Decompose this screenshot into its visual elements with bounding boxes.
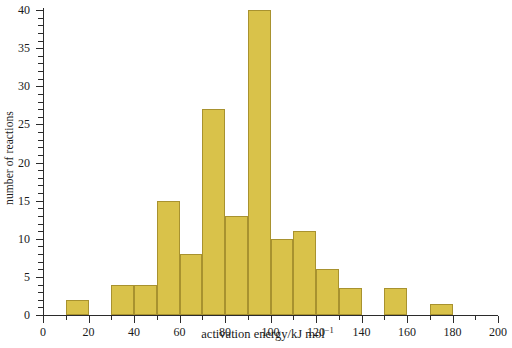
y-axis-tick-major [36,201,43,202]
plot-area [43,10,498,315]
histogram-bar [134,285,157,316]
x-axis-tick-label: 80 [205,326,245,338]
y-axis-tick-label: 25 [0,118,30,130]
x-axis-tick-major [89,316,90,323]
y-axis-tick-label: 10 [0,233,30,245]
histogram-bar [66,300,89,315]
x-axis-tick-label: 140 [342,326,382,338]
y-axis-tick-label: 5 [0,271,30,283]
x-axis-tick-label: 20 [69,326,109,338]
x-axis-tick-label: 0 [23,326,63,338]
x-axis-tick-major [407,316,408,323]
y-axis-tick-label: 35 [0,42,30,54]
x-axis-tick-minor [339,316,340,320]
x-axis-tick-label: 180 [433,326,473,338]
histogram-bar [430,304,453,315]
y-axis-tick-label: 30 [0,80,30,92]
x-axis-tick-label: 60 [160,326,200,338]
histogram-bar [271,239,294,315]
y-axis-tick-major [36,124,43,125]
x-axis-tick-label: 100 [251,326,291,338]
x-axis-tick-minor [430,316,431,320]
histogram-bar [339,288,362,315]
x-axis-tick-label: 40 [114,326,154,338]
y-axis-tick-major [36,239,43,240]
x-axis-tick-major [271,316,272,323]
histogram-bar [202,109,225,315]
x-axis-tick-major [43,316,44,323]
x-axis-tick-minor [111,316,112,320]
y-axis-tick-major [36,86,43,87]
x-axis-tick-label: 120 [296,326,336,338]
histogram-bar [225,216,248,315]
y-axis-tick-major [36,277,43,278]
y-axis-tick-labels: 0510152025303540 [0,0,34,348]
histogram-bar [111,285,134,316]
x-axis-tick-minor [293,316,294,320]
y-axis-tick-label: 20 [0,157,30,169]
y-axis-tick-label: 40 [0,4,30,16]
x-axis-tick-major [225,316,226,323]
x-axis-tick-major [180,316,181,323]
histogram-bar [293,231,316,315]
x-axis-tick-minor [475,316,476,320]
y-axis-tick-label: 0 [0,309,30,321]
histogram-bar [157,201,180,315]
y-axis-tick-major [36,163,43,164]
x-axis-tick-major [498,316,499,323]
histogram-bar [180,254,203,315]
x-axis-tick-minor [248,316,249,320]
x-axis-tick-major [316,316,317,323]
x-axis-tick-minor [66,316,67,320]
histogram-bar [384,288,407,315]
x-axis-tick-label: 160 [387,326,427,338]
y-axis-tick-major [36,48,43,49]
x-axis-tick-major [134,316,135,323]
histogram-bar [316,269,339,315]
x-axis-tick-minor [202,316,203,320]
y-axis-tick-major [36,315,43,316]
y-axis-tick-label: 15 [0,195,30,207]
x-axis-tick-label: 200 [478,326,512,338]
x-axis-tick-minor [157,316,158,320]
x-axis-tick-major [453,316,454,323]
histogram-bar [248,10,271,315]
y-axis-tick-major [36,10,43,11]
x-axis-tick-major [362,316,363,323]
x-axis-tick-minor [384,316,385,320]
